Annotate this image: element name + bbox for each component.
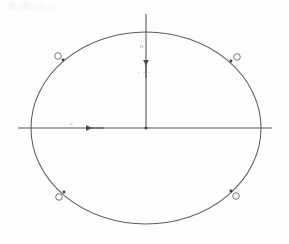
- center-point-marker: [145, 127, 148, 130]
- marker-ring: [234, 54, 241, 61]
- figure-container: n - - - r: [0, 0, 289, 244]
- marker-ring: [56, 194, 63, 201]
- marker-ring: [233, 193, 240, 200]
- data-marker-upper-left: [55, 53, 65, 62]
- marker-dot: [63, 191, 66, 194]
- marker-dot: [230, 60, 233, 63]
- marker-dot: [62, 59, 65, 62]
- marker-dot: [230, 190, 233, 193]
- data-marker-lower-right: [230, 190, 240, 200]
- marker-ring: [55, 53, 62, 60]
- ellipse-diagram-svg: [0, 0, 289, 244]
- data-marker-upper-right: [230, 54, 241, 63]
